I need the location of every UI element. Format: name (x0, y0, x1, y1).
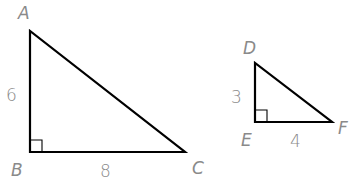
triangle-def: D E F 3 4 (231, 38, 348, 151)
diagram-canvas: A B C 6 8 D E F 3 4 (0, 0, 349, 184)
right-angle-marker-b (30, 140, 42, 152)
vertex-label-e: E (241, 130, 252, 150)
vertex-label-f: F (338, 118, 348, 138)
vertex-label-a: A (17, 3, 30, 23)
side-label-de: 3 (231, 87, 242, 107)
side-label-bc: 8 (100, 161, 111, 181)
side-label-ab: 6 (6, 85, 17, 105)
triangle-abc-shape (30, 31, 185, 152)
vertex-label-d: D (243, 38, 256, 58)
vertex-label-b: B (11, 160, 23, 180)
right-angle-marker-e (255, 110, 267, 122)
triangle-abc: A B C 6 8 (6, 3, 204, 181)
side-label-ef: 4 (290, 131, 301, 151)
vertex-label-c: C (192, 158, 204, 178)
